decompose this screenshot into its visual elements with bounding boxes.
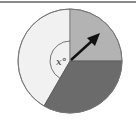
spinner-diagram: x° — [0, 0, 136, 120]
angle-label: x° — [56, 56, 67, 67]
